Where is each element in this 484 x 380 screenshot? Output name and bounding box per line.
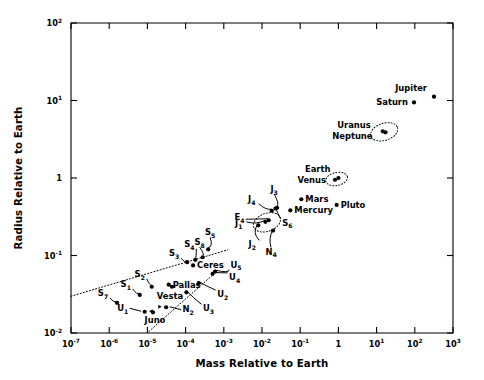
point-label-callisto: J4	[247, 194, 255, 206]
data-point-miranda[interactable]	[143, 310, 147, 314]
x-tick-label: 101	[369, 338, 385, 349]
point-label-mercury: Mercury	[294, 205, 333, 215]
label-leader-arrow	[130, 308, 142, 311]
point-label-uranus: Uranus	[337, 120, 371, 130]
data-point-callisto[interactable]	[270, 209, 274, 213]
label-leader-line	[246, 220, 265, 223]
x-tick-label: 10-7	[62, 338, 80, 349]
data-point-juno[interactable]	[151, 310, 155, 314]
x-tick-label: 10-3	[215, 338, 233, 349]
x-tick-label: 10-4	[177, 338, 195, 349]
point-label-venus: Venus	[297, 175, 326, 185]
point-label-n2: N2	[183, 304, 194, 316]
figure-panel: 10-710-610-510-410-310-210-1110110210310…	[0, 0, 484, 380]
point-label-enceladus: S2	[135, 269, 145, 281]
x-tick-label: 10-1	[291, 338, 309, 349]
data-point-europa[interactable]	[256, 223, 260, 227]
point-label-triton: N4	[265, 247, 276, 259]
point-label-tethys: S3	[169, 248, 179, 260]
point-label-mimas: S1	[121, 279, 131, 291]
label-leader-line	[213, 272, 228, 273]
data-point-neptune[interactable]	[383, 130, 387, 134]
label-leader-line	[246, 219, 269, 220]
point-label-umbriel: U2	[217, 289, 228, 301]
data-point-mercury[interactable]	[288, 208, 292, 212]
label-leader-line	[195, 249, 196, 258]
x-tick-label: 10-6	[100, 338, 118, 349]
data-point-enceladus[interactable]	[150, 285, 154, 289]
label-leader-line	[259, 204, 272, 210]
data-point-tethys[interactable]	[185, 260, 189, 264]
scatter-plot-mass-radius: 10-710-610-510-410-310-210-1110110210310…	[0, 0, 484, 380]
point-label-juno: Juno	[144, 315, 166, 325]
point-label-miranda: U1	[117, 303, 128, 315]
data-point-vesta[interactable]	[170, 285, 174, 289]
point-label-ceres: Ceres	[197, 260, 224, 270]
data-point-pluto[interactable]	[335, 203, 339, 207]
point-label-ganymede: J3	[269, 184, 277, 196]
point-label-oberon: U4	[229, 272, 240, 284]
point-label-ariel: U3	[203, 303, 214, 315]
y-tick-label: 1	[56, 173, 62, 183]
label-leader-line	[186, 291, 201, 305]
label-leader-line	[147, 279, 152, 286]
data-point-mars[interactable]	[299, 197, 303, 201]
data-point-triton[interactable]	[271, 228, 275, 232]
label-leader-line	[133, 289, 140, 294]
x-tick-label: 103	[445, 338, 461, 349]
y-tick-label: 10-2	[44, 328, 62, 339]
data-point-io[interactable]	[267, 218, 271, 222]
y-axis-title: Radius Relative to Earth	[13, 107, 24, 250]
data-point-saturn[interactable]	[412, 100, 416, 104]
point-label-rhea: S5	[205, 227, 215, 239]
x-axis-title: Mass Relative to Earth	[196, 358, 329, 369]
point-label-neptune: Neptune	[332, 131, 373, 141]
label-leader-arrowhead	[158, 305, 161, 309]
label-leader-arrow	[170, 307, 182, 310]
point-label-jupiter: Jupiter	[394, 83, 428, 93]
label-leader-line	[199, 282, 216, 291]
data-point-rhea[interactable]	[206, 247, 210, 251]
point-label-earth: Earth	[305, 164, 331, 174]
point-label-saturn: Saturn	[376, 97, 408, 107]
x-tick-label: 1	[336, 339, 342, 349]
data-point-mimas[interactable]	[138, 293, 142, 297]
point-label-pallas: Pallas	[173, 280, 201, 290]
data-point-ceres[interactable]	[191, 263, 195, 267]
x-tick-label: 10-5	[138, 338, 156, 349]
label-leader-line	[274, 194, 278, 207]
point-label-mars: Mars	[305, 194, 328, 204]
x-tick-label: 102	[407, 338, 423, 349]
y-tick-label: 10-1	[44, 250, 62, 261]
y-tick-label: 101	[46, 95, 62, 106]
data-point-ariel[interactable]	[184, 290, 188, 294]
data-point-venus[interactable]	[333, 178, 337, 182]
point-label-titan: S6	[282, 218, 292, 230]
y-tick-label: 102	[46, 18, 62, 29]
point-label-iapetus: S8	[195, 237, 205, 249]
point-label-europa: J2	[248, 239, 256, 251]
point-label-pluto: Pluto	[341, 200, 366, 210]
x-tick-label: 10-2	[253, 338, 271, 349]
data-point-n2[interactable]	[164, 305, 168, 309]
data-point-jupiter[interactable]	[432, 95, 436, 99]
data-point-titan[interactable]	[273, 206, 277, 210]
point-label-dione: S4	[184, 239, 194, 251]
point-label-titania: U5	[231, 260, 242, 272]
data-point-iapetus[interactable]	[201, 255, 205, 259]
point-label-vesta: Vesta	[157, 291, 183, 301]
data-point-oberon[interactable]	[211, 272, 215, 276]
point-label-hyperion: S7	[98, 288, 108, 300]
